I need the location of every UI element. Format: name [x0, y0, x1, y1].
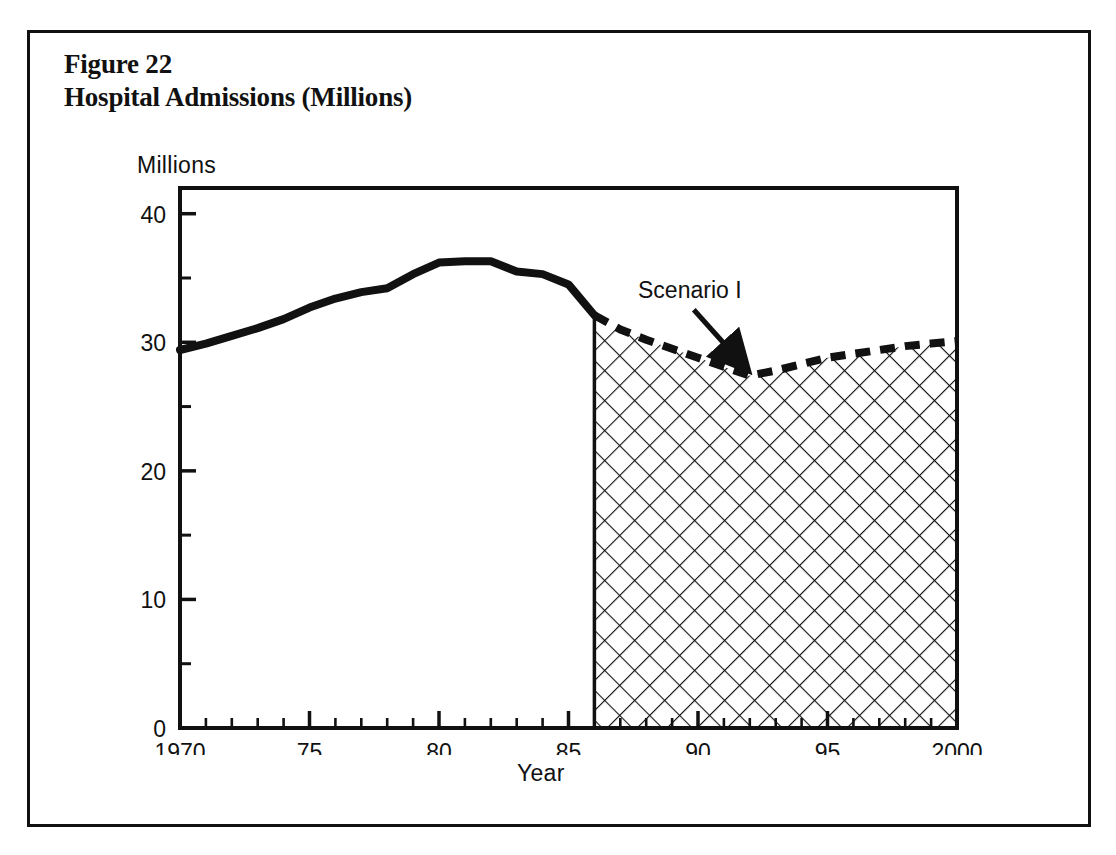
- x-axis-label: Year: [517, 760, 565, 787]
- y-tick-label: 10: [140, 587, 166, 613]
- page-title: Hospital Admissions (Millions): [64, 81, 412, 114]
- x-tick-label: 75: [297, 739, 323, 755]
- y-tick-label: 40: [140, 202, 166, 228]
- figure-title-block: Figure 22 Hospital Admissions (Millions): [64, 48, 412, 114]
- hospital-admissions-chart: 010203040197075808590952000 Scenario I: [140, 175, 1000, 755]
- x-tick-label: 85: [556, 739, 582, 755]
- y-tick-label: 30: [140, 330, 166, 356]
- figure-number: Figure 22: [64, 48, 412, 81]
- x-tick-label: 80: [426, 739, 452, 755]
- figure-container: Figure 22 Hospital Admissions (Millions)…: [0, 0, 1116, 855]
- historical-series-line: [180, 261, 594, 350]
- x-tick-label: 1970: [154, 739, 205, 755]
- x-tick-label: 2000: [931, 739, 982, 755]
- y-tick-label: 20: [140, 459, 166, 485]
- annotation-label: Scenario I: [638, 277, 742, 303]
- x-tick-label: 95: [815, 739, 841, 755]
- projection-hatched-area: [594, 315, 957, 728]
- x-tick-label: 90: [685, 739, 711, 755]
- chart-plot-area: 010203040197075808590952000 Scenario I: [140, 175, 1000, 755]
